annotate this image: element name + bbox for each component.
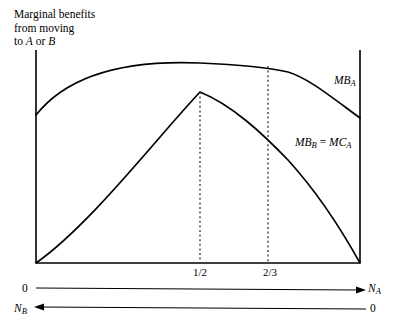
axis-label-nb-sub: B xyxy=(22,306,27,316)
axis-arrow-na-head xyxy=(356,286,366,293)
tick-label-twothirds: 2/3 xyxy=(252,266,288,278)
curve-label-mba-main: MB xyxy=(334,74,351,86)
axis-arrow-na-line xyxy=(36,288,358,290)
y-axis-caption-line-3-mid: or xyxy=(33,35,48,47)
axis-label-nb: NB xyxy=(14,302,27,316)
axis-label-na-sub: A xyxy=(376,286,381,296)
y-axis-caption-line-3: to A or B xyxy=(14,35,95,49)
curve-label-mca-main: MC xyxy=(329,136,346,148)
axis-label-na-main: N xyxy=(368,282,376,294)
y-axis-caption-b: B xyxy=(48,35,55,47)
y-axis-caption-line-2: from moving xyxy=(14,22,95,36)
axis-arrow-nb-head xyxy=(34,303,44,310)
curve-label-mba: MBA xyxy=(334,74,356,88)
axis-label-origin-b: 0 xyxy=(370,302,376,314)
y-axis-caption: Marginal benefits from moving to A or B xyxy=(14,8,95,49)
curve-mbb-mca xyxy=(36,92,360,263)
axis-arrow-nb-line xyxy=(38,307,366,309)
y-axis-caption-line-1: Marginal benefits xyxy=(14,8,95,22)
y-axis-caption-line-3-pre: to xyxy=(14,35,26,47)
curve-mba xyxy=(36,63,360,118)
curve-label-equals: = xyxy=(317,136,329,148)
tick-label-half: 1/2 xyxy=(182,266,218,278)
axis-label-na: NA xyxy=(368,282,381,296)
marginal-benefits-figure: Marginal benefits from moving to A or B … xyxy=(0,0,396,324)
curve-label-mbb-main: MB xyxy=(295,136,312,148)
axis-label-nb-main: N xyxy=(14,302,22,314)
curve-label-mba-sub: A xyxy=(351,78,356,88)
curve-label-mbb-mca: MBB = MCA xyxy=(295,136,352,150)
axis-label-origin-a: 0 xyxy=(22,282,28,294)
curve-label-mca-sub: A xyxy=(346,140,351,150)
y-axis-caption-a: A xyxy=(26,35,33,47)
